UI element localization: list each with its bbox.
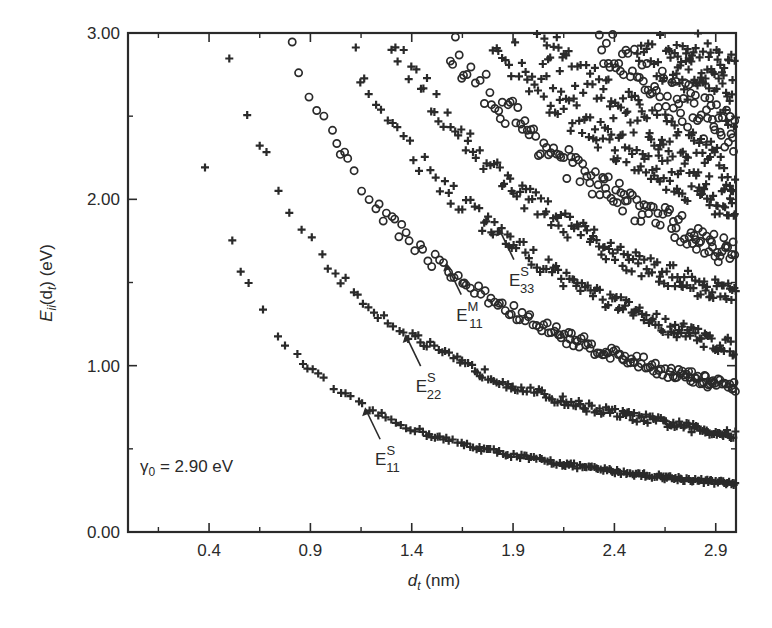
metallic-point: [553, 323, 560, 330]
semiconducting-point: [571, 82, 579, 90]
semiconducting-point: [557, 88, 565, 96]
semiconducting-point: [441, 177, 449, 185]
semiconducting-point: [688, 182, 696, 190]
semiconducting-point: [559, 282, 567, 290]
semiconducting-point: [432, 174, 440, 182]
metallic-point: [684, 124, 691, 131]
metallic-point: [486, 89, 493, 96]
semiconducting-point: [491, 218, 499, 226]
semiconducting-point: [518, 59, 526, 67]
semiconducting-point: [607, 97, 615, 105]
semiconducting-point: [314, 369, 322, 377]
semiconducting-point: [529, 246, 537, 254]
semiconducting-point: [560, 105, 568, 113]
metallic-point: [380, 218, 387, 225]
metallic-point: [502, 120, 509, 127]
semiconducting-point: [619, 262, 627, 270]
semiconducting-point: [667, 54, 675, 62]
semiconducting-point: [545, 256, 553, 264]
semiconducting-point: [274, 332, 282, 340]
scatter-chart: 0.40.91.41.92.42.90.001.002.003.00 ES11E…: [0, 0, 772, 628]
semiconducting-point: [259, 306, 267, 314]
semiconducting-point: [293, 350, 301, 358]
semiconducting-point: [356, 78, 364, 86]
semiconducting-point: [400, 46, 408, 54]
semiconducting-point: [243, 111, 251, 119]
semiconducting-point: [318, 250, 326, 258]
semiconducting-point: [557, 275, 565, 283]
semiconducting-point: [623, 108, 631, 116]
semiconducting-point: [476, 146, 484, 154]
metallic-point: [313, 107, 320, 114]
semiconducting-point: [405, 75, 413, 83]
semiconducting-point: [568, 119, 576, 127]
semiconducting-point: [662, 315, 670, 323]
metallic-point: [406, 237, 413, 244]
semiconducting-point: [324, 265, 332, 273]
tick-labels: 0.40.91.41.92.42.90.001.002.003.00: [87, 24, 728, 560]
metallic-point: [576, 178, 583, 185]
transition-label: EM11: [456, 299, 483, 331]
metallic-point: [452, 34, 459, 41]
semiconducting-point: [539, 60, 547, 68]
semiconducting-point: [564, 234, 572, 242]
semiconducting-point: [611, 146, 619, 154]
semiconducting-point: [597, 251, 605, 259]
metallic-point: [333, 140, 340, 147]
metallic-point: [428, 263, 435, 270]
semiconducting-point: [393, 123, 401, 131]
metallic-point: [664, 93, 671, 100]
metallic-point: [411, 247, 418, 254]
semiconducting-point: [597, 94, 605, 102]
semiconducting-point: [619, 94, 627, 102]
semiconducting-point: [595, 75, 603, 83]
metallic-point: [320, 113, 327, 120]
metallic-point: [398, 221, 405, 228]
metallic-point: [565, 146, 572, 153]
semiconducting-point: [669, 153, 677, 161]
metallic-point: [366, 196, 373, 203]
metallic-point: [619, 207, 626, 214]
semiconducting-point: [724, 173, 732, 181]
semiconducting-point: [621, 143, 629, 151]
metallic-point: [537, 150, 544, 157]
metallic-point: [673, 224, 680, 231]
semiconducting-point: [478, 227, 486, 235]
semiconducting-point: [583, 226, 591, 234]
semiconducting-point: [728, 186, 736, 194]
semiconducting-point: [543, 41, 551, 49]
semiconducting-point: [537, 194, 545, 202]
semiconducting-point: [717, 153, 725, 161]
metallic-point: [358, 188, 365, 195]
data-points: [201, 30, 740, 490]
semiconducting-point: [423, 74, 431, 82]
y-tick-label: 3.00: [87, 24, 120, 43]
semiconducting-point: [622, 158, 630, 166]
metallic-point: [510, 302, 517, 309]
semiconducting-point: [365, 90, 373, 98]
semiconducting-point: [237, 268, 245, 276]
semiconducting-point: [415, 167, 423, 175]
semiconducting-point: [700, 343, 708, 351]
semiconducting-point: [275, 187, 283, 195]
x-tick-label: 0.9: [299, 541, 323, 560]
semiconducting-point: [590, 226, 598, 234]
x-axis-title: dt (nm): [408, 571, 460, 593]
semiconducting-point: [705, 172, 713, 180]
semiconducting-point: [579, 89, 587, 97]
semiconducting-point: [567, 127, 575, 135]
semiconducting-point: [466, 130, 474, 138]
semiconducting-point: [555, 222, 563, 230]
semiconducting-point: [308, 233, 316, 241]
semiconducting-point: [626, 119, 634, 127]
semiconducting-point: [591, 125, 599, 133]
semiconducting-point: [201, 163, 209, 171]
metallic-point: [329, 127, 336, 134]
metallic-point: [616, 180, 623, 187]
x-tick-label: 2.4: [603, 541, 627, 560]
metallic-point: [456, 51, 463, 58]
transition-label: ES11: [375, 443, 400, 475]
y-axis-title: Eii(dt) (eV): [37, 244, 59, 322]
semiconducting-point: [520, 204, 528, 212]
y-tick-label: 0.00: [87, 523, 120, 542]
